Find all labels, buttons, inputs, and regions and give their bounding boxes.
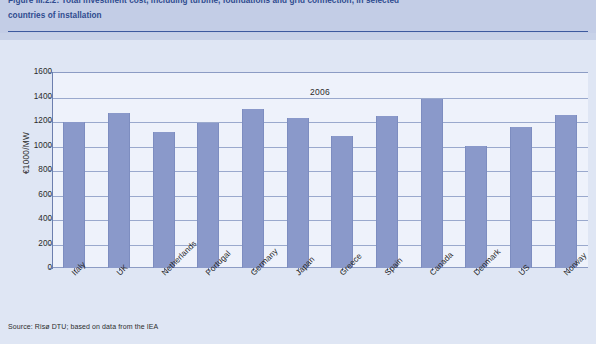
y-axis-tick-mark [48,146,52,147]
figure-caption-line-1: Figure III.2.2: Total investment cost, i… [8,0,590,8]
y-axis-line [52,72,53,269]
source-note: Source: Risø DTU; based on data from the… [8,323,158,330]
source-note-area: Source: Risø DTU; based on data from the… [0,315,596,344]
bar [555,115,577,268]
y-axis-title: €1000/MW [21,108,31,198]
bar [421,99,443,268]
header-band-footer-strip [0,33,596,40]
bar [153,132,175,268]
bar [242,109,264,268]
bar [287,118,309,268]
y-axis-tick-mark [48,72,52,73]
x-axis-label-group: ItalyUKNetherlandsPortugalGermanyJapanGr… [52,269,588,315]
bar [465,146,487,269]
figure-caption-line-2: countries of installation [8,8,590,23]
y-axis-tick-label: 1400 [18,92,52,101]
chart-figure-body: 2006 16001400120010008006004002000 €1000… [0,40,596,315]
bar [376,116,398,268]
y-axis-tick-mark [48,121,52,122]
bar [108,113,130,268]
y-axis-tick-mark [48,195,52,196]
y-axis-tick-label: 200 [18,239,52,248]
bar-series-2006 [52,72,588,268]
y-axis-tick-mark [48,244,52,245]
bar [510,127,532,268]
y-axis-tick-label: 0 [18,263,52,272]
figure-caption: Figure III.2.2: Total investment cost, i… [8,0,590,23]
y-axis-tick-label: 400 [18,214,52,223]
y-axis-tick-mark [48,219,52,220]
y-axis-tick-label: 1600 [18,67,52,76]
bar [63,122,85,268]
bar [197,123,219,268]
y-axis-tick-mark [48,97,52,98]
y-axis-tick-mark [48,170,52,171]
bar [331,136,353,268]
figure-header-band: Figure III.2.2: Total investment cost, i… [0,0,596,40]
